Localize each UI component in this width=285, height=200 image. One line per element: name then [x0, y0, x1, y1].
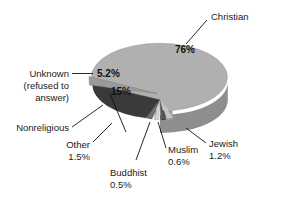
label-unknown-pct: 5.2% [97, 68, 120, 79]
label-buddhist-name: Buddhist [110, 167, 147, 178]
label-unknown-line1: Unknown [29, 68, 69, 79]
label-unknown-line2: (refused to [24, 80, 69, 91]
label-nonreligious-pct: 15% [111, 86, 131, 97]
label-muslim-name: Muslim [168, 144, 198, 155]
label-nonreligious-name: Nonreligious [16, 122, 69, 133]
leader-line-jewish [186, 128, 206, 143]
label-other-name: Other [66, 139, 90, 150]
label-unknown-line3: answer) [35, 92, 69, 103]
label-christian-name: Christian [211, 11, 249, 22]
pie-chart-figure: Christian 76% Unknown (refused to answer… [0, 0, 285, 200]
label-jewish-pct: 1.2% [209, 150, 231, 161]
leader-line-christian [186, 20, 207, 44]
leader-line-other [93, 123, 112, 142]
pie-chart-svg: Christian 76% Unknown (refused to answer… [0, 0, 285, 200]
label-jewish-name: Jewish [209, 138, 238, 149]
leader-line-nonreligious [72, 105, 103, 127]
label-muslim-pct: 0.6% [168, 156, 190, 167]
label-christian-pct: 76% [175, 44, 195, 55]
label-other-pct: 1.5% [68, 151, 90, 162]
label-buddhist-pct: 0.5% [110, 179, 132, 190]
